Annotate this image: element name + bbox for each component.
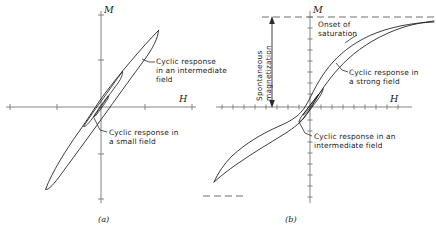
panel-a-intermediate-loop xyxy=(84,72,123,127)
panel-a-annot-int-line1: Cyclic response xyxy=(156,57,216,66)
panel-a-annot-small-line1: Cyclic response in xyxy=(109,128,179,137)
panel-a-m-axis-label: M xyxy=(103,4,114,15)
panel-b-major-loop-upper xyxy=(214,22,434,182)
panel-a-label: (a) xyxy=(98,214,109,224)
panel-a-annotation-intermediate: Cyclic response in an intermediate field xyxy=(156,57,227,84)
panel-b-annotation-intermediate: Cyclic response in an intermediate field xyxy=(314,132,396,150)
panel-a-annotation-small: Cyclic response in a small field xyxy=(109,128,179,146)
panel-b-spontaneous-line1: Spontaneous xyxy=(255,50,264,101)
panel-a-annot-int-line3: field xyxy=(156,75,173,84)
panel-a-annot-small-line2: a small field xyxy=(109,137,156,146)
panel-a-h-axis-label: H xyxy=(178,93,188,104)
panel-b-spontaneous-label: Spontaneous magnetization xyxy=(255,45,273,101)
panel-b-major-loop-lower xyxy=(214,21,434,182)
panel-b-annot-strong-line2: a strong field xyxy=(349,77,400,86)
panel-b-annot-int-line1: Cyclic response in an xyxy=(314,132,396,141)
panel-a: Cyclic response in an intermediate field… xyxy=(6,4,227,224)
panel-b-annot-strong-line1: Cyclic response in xyxy=(349,68,419,77)
panel-b-label: (b) xyxy=(285,214,297,224)
panel-b-annot-int-line2: intermediate field xyxy=(314,141,383,150)
panel-b-minor-loop-inner xyxy=(303,95,318,115)
panel-b-annotation-strong: Cyclic response in a strong field xyxy=(349,68,419,86)
panel-b-annot-onset-line2: saturation xyxy=(318,29,357,38)
panel-b-m-axis-label: M xyxy=(312,4,323,15)
panel-a-annot-int-line2: in an intermediate xyxy=(156,66,227,75)
panel-b: Spontaneous magnetization Onset of satur… xyxy=(203,4,434,224)
panel-b-annotation-onset: Onset of saturation xyxy=(318,20,357,38)
hysteresis-figure: Cyclic response in an intermediate field… xyxy=(0,0,436,231)
panel-b-annot-onset-line1: Onset of xyxy=(318,20,351,29)
figure-canvas: Cyclic response in an intermediate field… xyxy=(0,0,436,231)
panel-a-large-loop xyxy=(46,31,159,190)
panel-b-h-axis-label: H xyxy=(389,93,399,104)
panel-b-spontaneous-line2: magnetization xyxy=(264,45,273,101)
